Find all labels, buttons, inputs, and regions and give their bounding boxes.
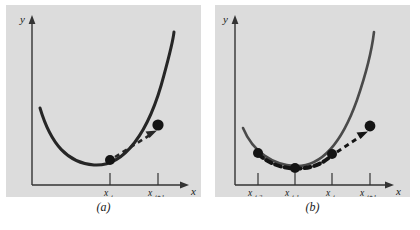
x-axis-label-b: x [395, 185, 401, 197]
tick-label-b-0-sub: i-2 [255, 193, 263, 198]
point-b-xi [327, 149, 337, 159]
point-a-xi [105, 155, 115, 165]
function-curve-a [40, 32, 174, 165]
tick-label-a-1-base: x [147, 188, 153, 197]
function-curve-b [243, 32, 374, 166]
tick-label-b-1-base: x [284, 188, 290, 197]
tick-label-b-1: x i-1 [284, 188, 299, 197]
tick-label-b-2-base: x [325, 188, 331, 197]
caption-b: (b) [215, 200, 410, 215]
tick-label-b-3-sub: i+1 [367, 193, 376, 198]
panel-a: y x x i x i+1 [6, 5, 201, 197]
panel-a-plot: y x x i x i+1 [6, 5, 201, 197]
panel-b: y x x i-2 x i-1 x i [215, 5, 410, 197]
tick-label-b-3: x i+1 [359, 188, 376, 197]
tick-label-b-1-sub: i-1 [292, 193, 299, 198]
x-axis-label-a: x [190, 185, 196, 197]
tick-label-a-0-base: x [103, 188, 109, 197]
tick-label-a-1: x i+1 [147, 188, 164, 197]
caption-a: (a) [6, 200, 201, 215]
y-axis-label-b: y [222, 13, 228, 25]
y-axis-a [29, 15, 36, 185]
point-b-xi2 [253, 148, 263, 158]
panel-b-plot: y x x i-2 x i-1 x i [215, 5, 410, 197]
tick-label-b-2: x i [325, 188, 335, 197]
y-axis-b [232, 15, 239, 185]
y-axis-label-a: y [19, 13, 25, 25]
tick-label-a-0-sub: i [111, 193, 113, 198]
tick-label-b-2-sub: i [333, 193, 335, 198]
point-b-xi1m [290, 163, 300, 173]
tick-label-b-0-base: x [247, 188, 253, 197]
tick-label-a-1-sub: i+1 [155, 193, 164, 198]
point-a-xi1 [152, 119, 163, 130]
tick-label-a-0: x i [103, 188, 113, 197]
figure-root: y x x i x i+1 [0, 0, 420, 230]
point-b-xi1p [365, 121, 376, 132]
step-arrow-a [115, 131, 157, 158]
tick-label-b-0: x i-2 [247, 188, 263, 197]
tick-label-b-3-base: x [359, 188, 365, 197]
